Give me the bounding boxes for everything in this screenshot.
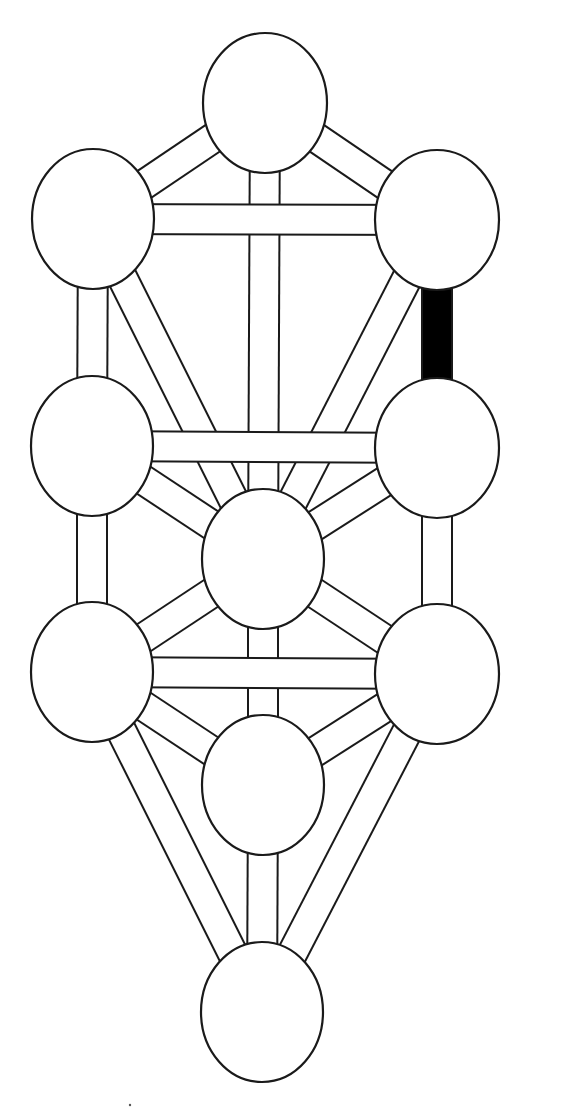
sephirah-circle-n7 [375,604,499,744]
sephirah-circle-n3 [32,149,154,289]
sephirah-circle-n9 [202,715,324,855]
marks-layer [129,1104,131,1106]
sephirah-circle-n6 [202,489,324,629]
sephirah-circle-n4 [375,378,499,518]
stray-dot [129,1104,131,1106]
sephirah-circle-n2 [375,150,499,290]
sephirah-circle-n5 [31,376,153,516]
sephirah-circle-n1 [203,33,327,173]
tree-of-life-diagram [0,0,585,1114]
sephirah-circle-n8 [31,602,153,742]
sephirah-circle-n10 [201,942,323,1082]
